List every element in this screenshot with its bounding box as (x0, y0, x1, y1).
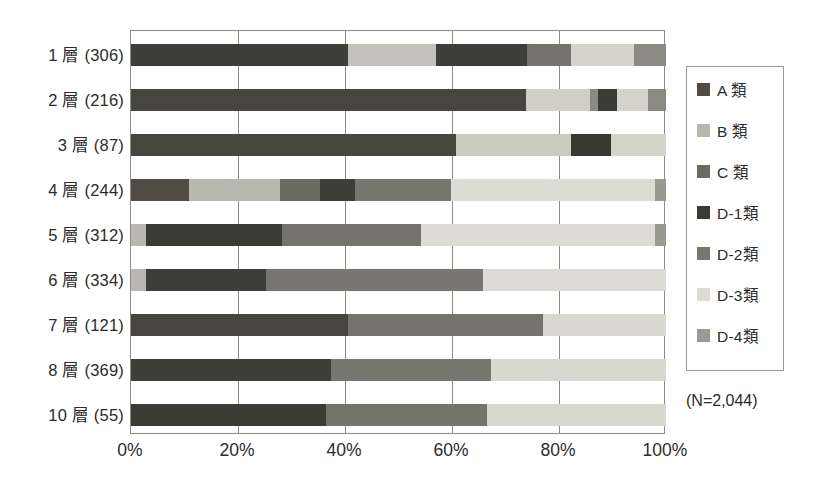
plot-area (130, 30, 665, 434)
bar-segment (451, 179, 655, 201)
bar-segment (648, 89, 666, 111)
bar-row (131, 404, 664, 426)
y-axis-label: 1 層 (306) (2, 44, 124, 66)
legend-swatch-icon (697, 329, 710, 342)
bar-segment (590, 89, 598, 111)
legend-label: C 類 (717, 160, 749, 182)
bar-segment (655, 224, 666, 246)
x-axis-tick-label: 40% (326, 440, 361, 461)
bar-segment (491, 359, 666, 381)
bar-segment (571, 134, 611, 156)
bar-segment (189, 179, 280, 201)
legend-item[interactable]: A 類 (697, 79, 747, 99)
bar-row (131, 269, 664, 291)
legend-item[interactable]: D-3類 (697, 284, 759, 304)
bar-segment (527, 44, 571, 66)
bar-segment (634, 44, 666, 66)
bar-segment (326, 404, 487, 426)
legend-label: A 類 (717, 78, 747, 100)
legend-label: D-2類 (717, 242, 759, 264)
bar-segment (131, 404, 326, 426)
stacked-bar-chart: 1 層 (306)2 層 (216)3 層 (87)4 層 (244)5 層 (… (0, 0, 820, 499)
bar-row (131, 314, 664, 336)
bar-row (131, 224, 664, 246)
bar-row (131, 179, 664, 201)
legend-item[interactable]: D-4類 (697, 325, 759, 345)
legend-item[interactable]: B 類 (697, 120, 748, 140)
bar-segment (282, 224, 421, 246)
bar-segment (543, 314, 666, 336)
bar-segment (331, 359, 491, 381)
bar-row (131, 359, 664, 381)
legend: A 類B 類C 類D-1類D-2類D-3類D-4類 (686, 66, 784, 371)
bar-segment (131, 89, 526, 111)
bar-segment (131, 134, 456, 156)
bar-segment (571, 44, 634, 66)
legend-swatch-icon (697, 165, 710, 178)
bar-segment (483, 269, 666, 291)
bar-segment (266, 269, 483, 291)
legend-swatch-icon (697, 83, 710, 96)
legend-swatch-icon (697, 247, 710, 260)
legend-swatch-icon (697, 124, 710, 137)
bar-segment (598, 89, 617, 111)
bar-segment (348, 44, 436, 66)
x-axis-tick-label: 20% (219, 440, 254, 461)
y-axis-label: 4 層 (244) (2, 179, 124, 201)
legend-swatch-icon (697, 288, 710, 301)
bar-row (131, 44, 664, 66)
x-axis-labels: 0%20%40%60%80%100% (130, 440, 665, 474)
bar-segment (146, 224, 282, 246)
y-axis-labels: 1 層 (306)2 層 (216)3 層 (87)4 層 (244)5 層 (… (0, 30, 124, 434)
bar-segment (131, 44, 348, 66)
bar-segment (526, 89, 590, 111)
total-n-annotation: (N=2,044) (686, 392, 758, 410)
bar-segment (348, 314, 543, 336)
y-axis-label: 3 層 (87) (2, 134, 124, 156)
bar-segment (617, 89, 648, 111)
bar-segment (355, 179, 451, 201)
legend-swatch-icon (697, 206, 710, 219)
x-axis-tick-label: 80% (540, 440, 575, 461)
y-axis-label: 6 層 (334) (2, 269, 124, 291)
y-axis-label: 7 層 (121) (2, 314, 124, 336)
y-axis-label: 8 層 (369) (2, 359, 124, 381)
x-axis-tick-label: 100% (643, 440, 688, 461)
legend-item[interactable]: D-2類 (697, 243, 759, 263)
y-axis-label: 5 層 (312) (2, 224, 124, 246)
bar-segment (131, 314, 348, 336)
bar-segment (280, 179, 320, 201)
bar-segment (131, 359, 331, 381)
bar-segment (146, 269, 266, 291)
bar-segment (131, 269, 146, 291)
x-axis-tick-label: 0% (117, 440, 142, 461)
legend-label: D-3類 (717, 283, 759, 305)
bar-segment (421, 224, 655, 246)
y-axis-label: 2 層 (216) (2, 89, 124, 111)
bar-segment (131, 179, 189, 201)
bar-segment (131, 224, 146, 246)
bar-segment (436, 44, 527, 66)
bar-segment (456, 134, 571, 156)
bar-row (131, 134, 664, 156)
y-axis-label: 10 層 (55) (2, 404, 124, 426)
bar-segment (487, 404, 666, 426)
legend-item[interactable]: C 類 (697, 161, 749, 181)
x-axis-tick-label: 60% (433, 440, 468, 461)
bar-segment (320, 179, 355, 201)
legend-label: B 類 (717, 119, 748, 141)
legend-label: D-1類 (717, 201, 759, 223)
legend-item[interactable]: D-1類 (697, 202, 759, 222)
bar-segment (611, 134, 666, 156)
legend-label: D-4類 (717, 324, 759, 346)
bar-row (131, 89, 664, 111)
bar-segment (655, 179, 666, 201)
